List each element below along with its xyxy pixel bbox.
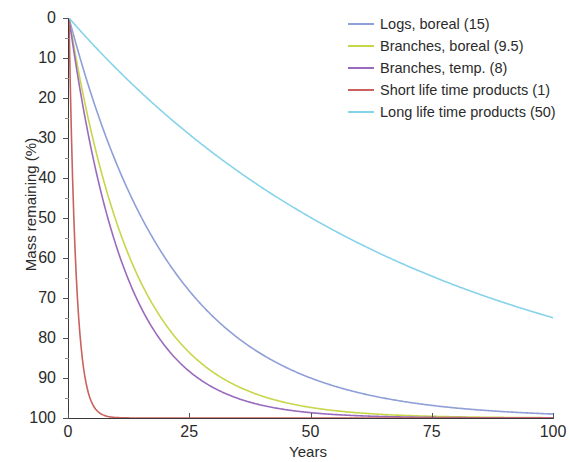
- y-tick-10: [63, 378, 69, 379]
- x-tick-25: [189, 413, 190, 419]
- legend-item-label: Short life time products (1): [380, 83, 550, 98]
- y-tick-80: [63, 98, 69, 99]
- y-minor-tick: [65, 38, 69, 39]
- x-tick-label-50: 50: [281, 424, 341, 440]
- legend-item-label: Long life time products (50): [380, 105, 556, 120]
- y-tick-20: [63, 338, 69, 339]
- legend-item-label: Branches, temp. (8): [380, 61, 507, 76]
- x-tick-75: [432, 413, 433, 419]
- y-minor-tick: [65, 118, 69, 119]
- y-tick-70: [63, 138, 69, 139]
- legend-item[interactable]: Short life time products (1): [348, 80, 563, 100]
- x-axis-title: Years: [248, 443, 368, 460]
- y-minor-tick: [65, 278, 69, 279]
- legend-item-label: Branches, boreal (9.5): [380, 39, 523, 54]
- x-tick-label-0: 0: [38, 424, 98, 440]
- legend-item[interactable]: Logs, boreal (15): [348, 14, 563, 34]
- chart-legend: Logs, boreal (15)Branches, boreal (9.5)B…: [348, 14, 563, 124]
- y-tick-60: [63, 178, 69, 179]
- legend-line-swatch: [348, 89, 374, 91]
- y-tick-90: [63, 58, 69, 59]
- y-tick-40: [63, 258, 69, 259]
- legend-line-swatch: [348, 67, 374, 69]
- legend-line-swatch: [348, 45, 374, 47]
- x-tick-100: [553, 413, 554, 419]
- y-minor-tick: [65, 158, 69, 159]
- x-tick-0: [68, 413, 69, 419]
- y-minor-tick: [65, 358, 69, 359]
- y-tick-50: [63, 218, 69, 219]
- legend-item[interactable]: Branches, temp. (8): [348, 58, 563, 78]
- x-tick-50: [311, 413, 312, 419]
- legend-line-swatch: [348, 111, 374, 113]
- y-minor-tick: [65, 78, 69, 79]
- y-tick-label-90: 10: [16, 50, 56, 66]
- y-tick-30: [63, 298, 69, 299]
- y-tick-label-100: 0: [16, 10, 56, 26]
- legend-item[interactable]: Branches, boreal (9.5): [348, 36, 563, 56]
- y-minor-tick: [65, 238, 69, 239]
- x-tick-label-25: 25: [159, 424, 219, 440]
- y-tick-100: [63, 18, 69, 19]
- y-minor-tick: [65, 318, 69, 319]
- y-tick-label-10: 90: [16, 370, 56, 386]
- chart-figure: 10090807060504030201000255075100 Mass re…: [0, 0, 570, 462]
- legend-item-label: Logs, boreal (15): [380, 17, 490, 32]
- y-tick-label-20: 80: [16, 330, 56, 346]
- x-tick-label-75: 75: [402, 424, 462, 440]
- y-minor-tick: [65, 398, 69, 399]
- y-minor-tick: [65, 198, 69, 199]
- x-tick-label-100: 100: [523, 424, 570, 440]
- y-axis-title: Mass remaining (%): [22, 105, 39, 305]
- legend-line-swatch: [348, 23, 374, 25]
- legend-item[interactable]: Long life time products (50): [348, 102, 563, 122]
